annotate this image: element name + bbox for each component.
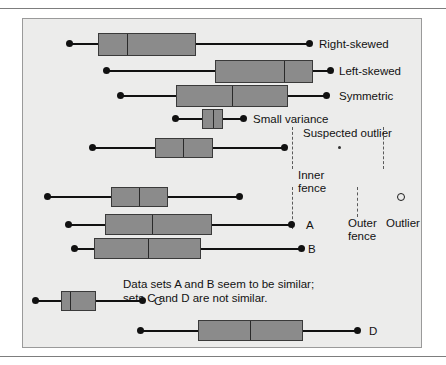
outer-fence-label-line2: fence — [348, 230, 376, 243]
bottom-divider-rule — [0, 356, 446, 357]
suspected-outlier-label: Suspected outlier — [303, 127, 392, 140]
whisker-max-dot — [354, 327, 361, 334]
whisker-max-dot — [323, 92, 330, 99]
whisker-min-dot — [32, 297, 39, 304]
whisker-min-dot — [117, 92, 124, 99]
outlier-point — [397, 193, 405, 201]
box-iqr — [105, 214, 212, 235]
whisker-min-dot — [44, 193, 51, 200]
suspected-outlier-point — [338, 146, 341, 149]
whisker-max-dot — [298, 245, 305, 252]
box-iqr — [155, 138, 213, 158]
whisker-min-dot — [172, 115, 179, 122]
box-iqr — [98, 33, 196, 56]
inner-fence-label-line1: Inner — [298, 169, 324, 182]
median-line — [232, 86, 233, 106]
whisker-min-dot — [137, 327, 144, 334]
median-line — [250, 321, 251, 340]
inner-fence-line-left — [292, 127, 293, 169]
series-label-a: A — [306, 219, 314, 231]
inner-fence-label-line2: fence — [298, 182, 326, 195]
top-divider-rule — [0, 8, 446, 9]
outer-fence-line — [357, 187, 358, 217]
whisker-max-dot — [288, 221, 295, 228]
whisker-max-dot — [240, 115, 247, 122]
whisker-min-dot — [65, 221, 72, 228]
whisker-min-dot — [103, 67, 110, 74]
median-line — [213, 110, 214, 128]
whisker-max-dot — [327, 67, 334, 74]
whisker-min-dot — [89, 144, 96, 151]
whisker-max-dot — [306, 40, 313, 47]
box-iqr — [215, 60, 313, 83]
outer-fence-label-line1: Outer — [348, 217, 377, 230]
median-line — [152, 215, 153, 234]
whisker-max-dot — [236, 193, 243, 200]
median-line — [70, 292, 71, 310]
series-label-c: C — [154, 295, 162, 307]
whisker-min-dot — [66, 40, 73, 47]
median-line — [183, 139, 184, 157]
box-iqr — [61, 291, 96, 311]
whisker-max-dot — [281, 144, 288, 151]
series-label-left-skewed: Left-skewed — [339, 65, 401, 77]
series-label-symmetric: Symmetric — [339, 90, 393, 102]
median-line — [139, 188, 140, 206]
series-label-d: D — [369, 325, 377, 337]
outlier-label: Outlier — [386, 217, 420, 230]
series-label-small-variance: Small variance — [253, 113, 328, 125]
median-line — [148, 239, 149, 258]
caption-line-1: Data sets A and B seem to be similar; — [123, 277, 314, 291]
boxplot-figure: Right-skewed Left-skewed Symmetric Small… — [22, 18, 422, 348]
median-line — [127, 34, 128, 55]
series-label-b: B — [308, 243, 316, 255]
median-line — [284, 61, 285, 82]
whisker-max-dot — [139, 297, 146, 304]
whisker-min-dot — [71, 245, 78, 252]
series-label-right-skewed: Right-skewed — [319, 38, 389, 50]
